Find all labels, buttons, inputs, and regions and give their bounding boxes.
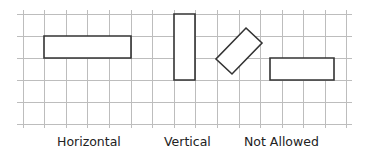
vertical-rectangle <box>174 14 195 80</box>
offset-horizontal-rectangle <box>270 58 334 80</box>
label-vertical: Vertical <box>164 134 211 149</box>
horizontal-rectangle <box>44 36 131 58</box>
rotated-rectangle <box>216 28 262 74</box>
label-horizontal: Horizontal <box>57 134 121 149</box>
label-not-allowed: Not Allowed <box>244 134 319 149</box>
